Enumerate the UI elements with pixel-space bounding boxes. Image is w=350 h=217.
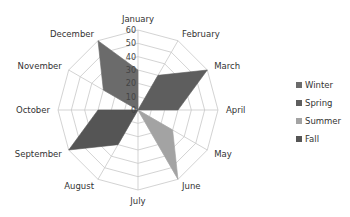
legend-swatch-icon [296,118,302,124]
radial-tick-labels: 0102030405060 [126,26,136,115]
legend-swatch-icon [296,100,302,106]
category-label: July [129,196,145,206]
tick-label: 40 [126,53,136,62]
legend-label: Summer [305,116,341,126]
category-label: December [50,29,95,39]
category-label: October [16,105,51,115]
category-label: March [214,61,240,71]
category-label: January [121,14,154,24]
series-summer [138,110,178,179]
legend-swatch-icon [296,136,302,142]
tick-label: 10 [126,93,136,102]
category-label: May [214,149,232,159]
tick-label: 0 [131,106,136,115]
legend-label: Spring [305,98,332,108]
legend-item-fall: Fall [296,130,350,148]
category-label: February [182,29,220,39]
legend-label: Fall [305,134,319,144]
tick-label: 50 [126,39,136,48]
legend-item-summer: Summer [296,112,350,130]
category-label: April [226,105,245,115]
tick-label: 20 [126,79,136,88]
chart-legend: Winter Spring Summer Fall [296,76,350,148]
tick-label: 60 [126,26,136,35]
category-label: November [18,61,63,71]
legend-item-spring: Spring [296,94,350,112]
legend-label: Winter [305,80,333,90]
tick-label: 30 [126,66,136,75]
category-label: August [64,181,94,191]
category-label: September [15,149,62,159]
series-spring [138,70,207,110]
legend-item-winter: Winter [296,76,350,94]
series-fall [69,110,138,150]
category-label: June [181,181,201,191]
legend-swatch-icon [296,82,302,88]
